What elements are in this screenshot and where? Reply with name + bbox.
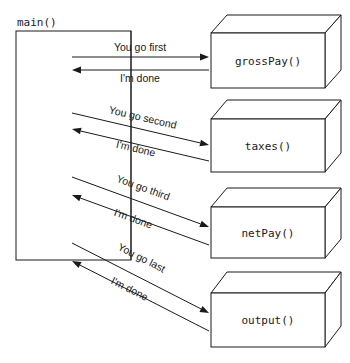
callee-box-output[interactable]: output() bbox=[211, 272, 341, 347]
diagram-canvas: main() grossPay()taxes()netPay()output()… bbox=[0, 0, 350, 363]
message-arrowhead bbox=[199, 140, 209, 147]
callee-label: netPay() bbox=[242, 227, 295, 240]
callee-box-layer: grossPay()taxes()netPay()output() bbox=[211, 15, 341, 347]
message-label: You go first bbox=[114, 41, 166, 53]
message-arrowhead bbox=[199, 221, 209, 227]
caller-label: main() bbox=[17, 16, 57, 29]
message-arrowhead bbox=[200, 54, 209, 61]
message-label: I'm done bbox=[109, 274, 150, 303]
message-return-4: I'm done bbox=[72, 261, 209, 331]
callee-box-grosspay[interactable]: grossPay() bbox=[211, 15, 341, 88]
message-label: I'm done bbox=[120, 72, 160, 84]
call-sequence-diagram: main() grossPay()taxes()netPay()output()… bbox=[0, 0, 350, 363]
callee-box-taxes[interactable]: taxes() bbox=[211, 100, 341, 172]
message-arrowhead bbox=[199, 306, 209, 313]
callee-box-netpay[interactable]: netPay() bbox=[211, 188, 341, 258]
callee-label: output() bbox=[242, 314, 295, 327]
callee-box-top-face bbox=[211, 188, 341, 207]
callee-box-top-face bbox=[211, 100, 341, 119]
callee-label: grossPay() bbox=[235, 55, 301, 68]
callee-box-top-face bbox=[211, 15, 341, 33]
callee-label: taxes() bbox=[245, 140, 291, 153]
callee-box-top-face bbox=[211, 272, 341, 293]
caller-rect bbox=[16, 31, 131, 260]
message-arrowhead bbox=[72, 261, 82, 268]
